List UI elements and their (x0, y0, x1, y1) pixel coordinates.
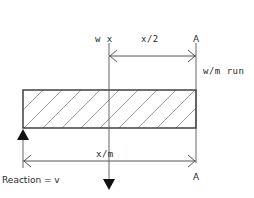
beam-hatching (5, 90, 233, 128)
load-arrow-icon (103, 179, 115, 190)
top-dimension (109, 50, 196, 62)
section-top-label: A (193, 34, 200, 44)
diagram-svg: w x x/2 A w/m run x/m A Reaction = v (0, 0, 254, 198)
support-triangle-icon (17, 129, 29, 140)
load-point-label: w x (95, 34, 113, 44)
span-dimension-label: x/m (96, 149, 114, 159)
section-bottom-label: A (193, 172, 200, 182)
half-dimension-label: x/2 (141, 34, 159, 44)
distributed-load-label: w/m run (203, 66, 244, 76)
reaction-label: Reaction = v (2, 175, 60, 185)
beam-diagram: w x x/2 A w/m run x/m A Reaction = v (0, 0, 254, 198)
